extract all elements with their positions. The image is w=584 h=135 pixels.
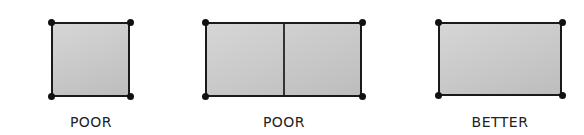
corner-mark xyxy=(559,19,566,26)
divider-line xyxy=(283,24,285,95)
divided-rectangle-shape xyxy=(205,22,362,97)
corner-mark xyxy=(127,19,134,26)
corner-mark xyxy=(435,92,442,99)
corner-mark xyxy=(202,19,209,26)
corner-mark xyxy=(48,93,55,100)
corner-mark xyxy=(202,93,209,100)
rectangle-shape xyxy=(438,22,562,96)
figure-label: POOR xyxy=(31,114,151,130)
corner-mark xyxy=(127,93,134,100)
corner-mark xyxy=(359,93,366,100)
figure-label: BETTER xyxy=(440,114,560,130)
square-shape xyxy=(51,22,130,97)
corner-mark xyxy=(359,19,366,26)
figure-label: POOR xyxy=(224,114,344,130)
corner-mark xyxy=(559,92,566,99)
corner-mark xyxy=(48,19,55,26)
corner-mark xyxy=(435,19,442,26)
